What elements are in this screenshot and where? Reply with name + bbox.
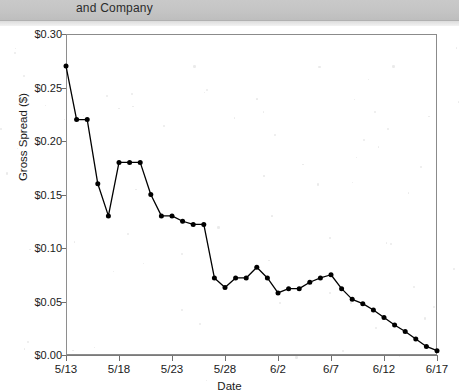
data-point	[286, 286, 291, 291]
data-point	[329, 272, 334, 277]
x-tick-label: 5/23	[161, 363, 183, 375]
scan-speck	[274, 134, 276, 136]
data-point	[180, 219, 185, 224]
data-point	[297, 286, 302, 291]
scan-speck	[271, 215, 273, 217]
y-tick-label: $0.10	[34, 242, 62, 254]
scan-speck	[256, 98, 258, 100]
x-tick-label: 5/13	[55, 363, 77, 375]
data-point	[212, 275, 217, 280]
data-point	[403, 329, 408, 334]
scan-speck	[263, 175, 264, 176]
data-point	[413, 336, 418, 341]
y-tick-label: $0.20	[34, 135, 62, 147]
data-point	[233, 275, 238, 280]
scan-speck	[374, 111, 376, 113]
x-tick-mark	[172, 356, 173, 361]
y-tick-label: $0.05	[34, 296, 62, 308]
x-tick-label: 6/12	[373, 363, 395, 375]
data-point	[191, 222, 196, 227]
x-tick-mark	[278, 356, 279, 361]
data-point	[339, 286, 344, 291]
data-point	[201, 222, 206, 227]
chart-figure: $0.00$0.05$0.10$0.15$0.20$0.25$0.30 Gros…	[0, 26, 459, 392]
x-tick-mark	[437, 356, 438, 361]
scan-speck	[279, 302, 281, 304]
scan-speck	[318, 66, 320, 68]
scan-speck	[193, 65, 196, 68]
data-point	[318, 275, 323, 280]
scan-speck	[15, 48, 16, 49]
scan-speck	[181, 309, 183, 311]
scan-speck	[317, 183, 319, 185]
data-point	[127, 160, 132, 165]
y-axis-labels: $0.00$0.05$0.10$0.15$0.20$0.25$0.30	[0, 26, 62, 392]
data-point	[392, 323, 397, 328]
scan-speck	[363, 139, 365, 141]
running-head-band: and Company	[0, 0, 459, 21]
x-tick-mark	[225, 356, 226, 361]
scan-speck	[217, 226, 219, 228]
data-point	[95, 181, 100, 186]
scan-speck	[6, 172, 8, 174]
scan-speck	[387, 128, 389, 130]
x-tick-mark	[66, 356, 67, 361]
scan-speck	[14, 52, 16, 54]
scan-speck	[131, 93, 133, 95]
y-tick-label: $0.30	[34, 28, 62, 40]
x-tick-mark	[119, 356, 120, 361]
x-tick-mark	[331, 356, 332, 361]
scan-speck	[45, 105, 46, 106]
scan-speck	[356, 157, 357, 158]
data-point	[382, 315, 387, 320]
data-point	[254, 265, 259, 270]
x-tick-label: 6/17	[426, 363, 448, 375]
data-point	[148, 192, 153, 197]
data-point	[138, 160, 143, 165]
data-point	[85, 117, 90, 122]
scan-speck	[350, 302, 352, 304]
data-point	[435, 348, 440, 353]
scan-speck	[295, 356, 297, 358]
data-point	[159, 213, 164, 218]
page-canvas: and Company $0.00$0.05$0.10$0.15$0.20$0.…	[0, 0, 459, 392]
scan-speck	[329, 237, 331, 239]
x-tick-label: 6/7	[323, 363, 339, 375]
data-point	[307, 280, 312, 285]
data-point	[424, 344, 429, 349]
x-tick-label: 5/18	[108, 363, 130, 375]
running-head-text: and Company	[76, 1, 153, 15]
data-point	[106, 213, 111, 218]
y-tick-label: $0.25	[34, 82, 62, 94]
scan-speck	[23, 75, 25, 77]
data-point	[223, 285, 228, 290]
scan-speck	[453, 268, 455, 270]
data-point	[170, 213, 175, 218]
y-tick-label: $0.00	[34, 349, 62, 361]
data-point	[244, 275, 249, 280]
scan-speck	[413, 286, 416, 289]
scan-speck	[342, 350, 344, 352]
scan-speck	[135, 189, 136, 190]
x-tick-label: 5/28	[214, 363, 236, 375]
data-point	[117, 160, 122, 165]
series-line	[66, 66, 437, 351]
data-point	[360, 301, 365, 306]
y-tick-label: $0.15	[34, 189, 62, 201]
data-point	[265, 275, 270, 280]
data-point	[276, 290, 281, 295]
x-axis-title: Date	[0, 380, 459, 392]
data-series-layer	[66, 34, 437, 356]
scan-speck	[392, 65, 395, 68]
data-point	[371, 308, 376, 313]
data-point	[74, 117, 79, 122]
x-tick-label: 6/2	[270, 363, 286, 375]
data-point	[64, 64, 69, 69]
scan-speck	[424, 317, 426, 319]
series-markers	[64, 64, 440, 354]
x-tick-mark	[384, 356, 385, 361]
y-axis-title: Gross Spread ($)	[17, 37, 29, 237]
